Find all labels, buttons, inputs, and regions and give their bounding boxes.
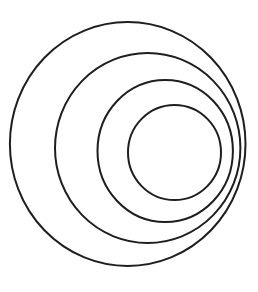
circle-third (98, 80, 233, 222)
diagram-canvas (0, 0, 258, 292)
circle-inner (128, 105, 221, 200)
nested-circles-diagram (0, 0, 258, 292)
